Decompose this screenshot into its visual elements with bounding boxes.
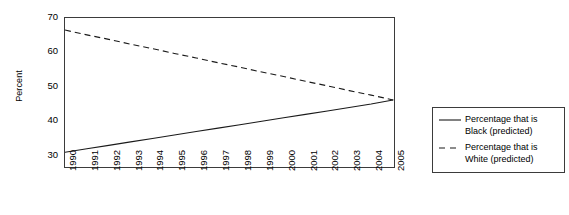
x-tick-label: 2002 — [330, 150, 340, 171]
y-axis-tick-labels: 3040506070 — [34, 0, 58, 215]
x-tick-label: 1997 — [221, 150, 231, 171]
x-tick-label: 1999 — [265, 150, 275, 171]
series-line-white — [65, 30, 393, 100]
x-tick-label: 1991 — [90, 150, 100, 171]
legend-label-white: Percentage that is White (predicted) — [462, 141, 538, 165]
y-axis-title: Percent — [14, 56, 24, 116]
legend-label-black: Percentage that is Black (predicted) — [462, 113, 538, 137]
x-tick-label: 2000 — [287, 150, 297, 171]
y-tick-label: 50 — [36, 81, 58, 91]
y-tick-label: 40 — [36, 115, 58, 125]
x-tick-label: 1992 — [112, 150, 122, 171]
chart-legend: Percentage that is Black (predicted) Per… — [432, 107, 565, 173]
x-tick-label: 2004 — [374, 150, 384, 171]
x-tick-label: 1990 — [68, 150, 78, 171]
plot-area — [64, 17, 395, 168]
x-tick-label: 2005 — [396, 150, 406, 171]
x-tick-label: 2001 — [309, 150, 319, 171]
plot-lines — [65, 18, 394, 167]
y-tick-label: 30 — [36, 150, 58, 160]
legend-label-white-line1: Percentage that is — [465, 142, 538, 152]
legend-solid-line-icon — [438, 114, 462, 126]
legend-entry-black: Percentage that is Black (predicted) — [438, 113, 562, 139]
legend-label-black-line1: Percentage that is — [465, 114, 538, 124]
x-tick-label: 1996 — [199, 150, 209, 171]
legend-label-white-line2: White (predicted) — [465, 154, 534, 164]
legend-entry-white: Percentage that is White (predicted) — [438, 141, 562, 167]
x-tick-label: 1995 — [177, 150, 187, 171]
chart-figure: Percent 3040506070 199019911992199319941… — [0, 0, 569, 215]
series-line-black — [65, 100, 393, 152]
legend-dashed-line-icon — [438, 142, 462, 154]
y-tick-label: 60 — [36, 46, 58, 56]
x-tick-label: 2003 — [352, 150, 362, 171]
x-tick-label: 1993 — [134, 150, 144, 171]
legend-label-black-line2: Black (predicted) — [465, 126, 533, 136]
x-axis-tick-labels: 1990199119921993199419951996199719981999… — [64, 168, 395, 215]
x-tick-label: 1994 — [155, 150, 165, 171]
x-tick-label: 1998 — [243, 150, 253, 171]
y-tick-label: 70 — [36, 12, 58, 22]
